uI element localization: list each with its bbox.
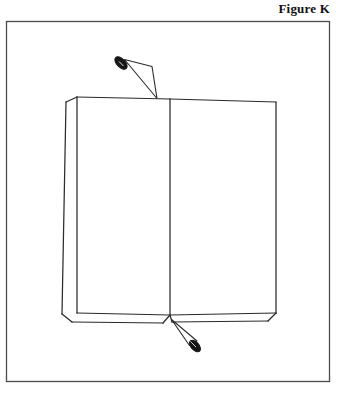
book-top-left-bevel [66,97,77,102]
nail-bottom [172,320,203,354]
book-top-edge-right [170,99,276,102]
nail-top-shaft [125,60,158,99]
open-book [62,97,276,323]
book-bottom-block-right [172,321,268,322]
illustration-border [7,22,330,382]
book-bottom-face-left [77,313,170,315]
book-bottom-left-bevel [62,314,72,322]
nail-top [113,55,157,99]
figure-page: Figure K [0,0,338,393]
book-bottom-block-left [72,322,163,323]
book-spine-base-notch [163,315,172,323]
book-bottom-face-right [170,313,276,315]
book-bottom-right-bevel [268,313,276,321]
book-left-outer-edge [62,102,66,314]
illustration-canvas [0,0,338,393]
